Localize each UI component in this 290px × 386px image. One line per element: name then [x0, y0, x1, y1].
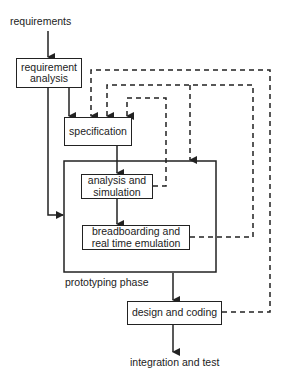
specification-label: specification: [69, 126, 127, 138]
requirement-analysis-node: requirement analysis: [16, 58, 82, 88]
breadboarding-node: breadboarding and real time emulation: [82, 225, 190, 250]
design-coding-node: design and coding: [127, 301, 222, 325]
specification-node: specification: [64, 117, 132, 146]
analysis-simulation-label: analysis and simulation: [88, 175, 146, 198]
arrow-analysis-to-prototyping: [48, 88, 63, 215]
requirement-analysis-label: requirement analysis: [21, 62, 77, 85]
prototyping-phase-label: prototyping phase: [65, 276, 148, 288]
analysis-simulation-node: analysis and simulation: [81, 174, 153, 199]
integration-test-label: integration and test: [130, 356, 219, 368]
dashed-simulation-feedback: [127, 98, 166, 186]
requirements-label: requirements: [10, 15, 71, 27]
breadboarding-label: breadboarding and real time emulation: [92, 226, 181, 249]
design-coding-label: design and coding: [132, 307, 217, 319]
